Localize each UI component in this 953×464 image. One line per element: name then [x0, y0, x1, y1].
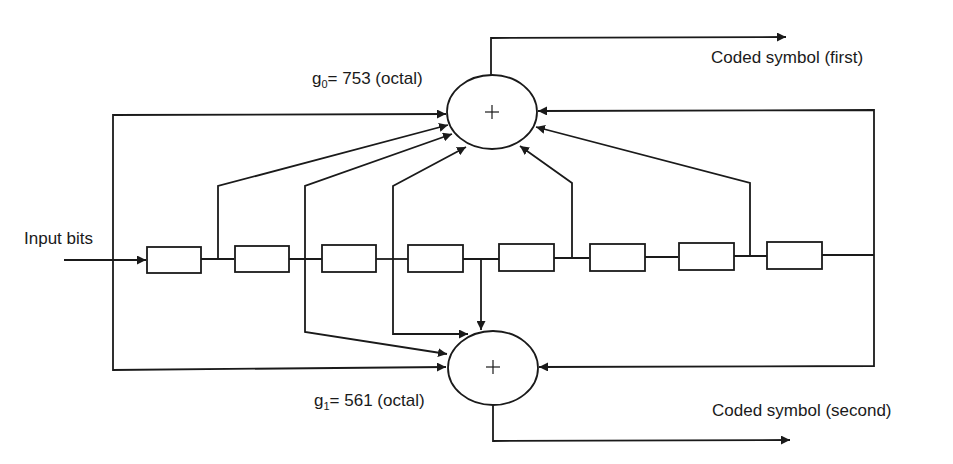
register-2 — [235, 246, 289, 272]
register-3 — [322, 245, 376, 272]
tap-1-to-g0 — [218, 125, 448, 259]
tap-2-to-g0 — [305, 134, 452, 259]
encoder-diagram — [0, 0, 953, 464]
coded-symbol-first-label: Coded symbol (first) — [711, 48, 863, 68]
register-7 — [679, 243, 734, 270]
tap-7-to-g0 — [536, 127, 750, 256]
tap-8-to-g0 — [538, 110, 874, 255]
tap-input-to-g1 — [113, 260, 446, 370]
tap-5-to-g0 — [520, 146, 572, 258]
register-1 — [147, 247, 201, 273]
g1-label: g1= 561 (octal) — [314, 391, 425, 412]
register-4 — [408, 245, 463, 272]
register-8 — [767, 242, 822, 269]
g0-label: g0= 753 (octal) — [312, 69, 423, 90]
g0-value: = 753 (octal) — [328, 69, 423, 88]
register-5 — [499, 244, 554, 271]
input-bits-label: Input bits — [24, 229, 93, 249]
g1-value: = 561 (octal) — [330, 391, 425, 410]
coded-symbol-second-label: Coded symbol (second) — [712, 401, 892, 421]
tap-input-to-g0 — [113, 114, 446, 260]
register-6 — [590, 244, 645, 271]
tap-3-to-g0 — [393, 147, 466, 259]
tap-2-to-g1 — [305, 259, 447, 354]
shift-registers — [147, 242, 822, 273]
